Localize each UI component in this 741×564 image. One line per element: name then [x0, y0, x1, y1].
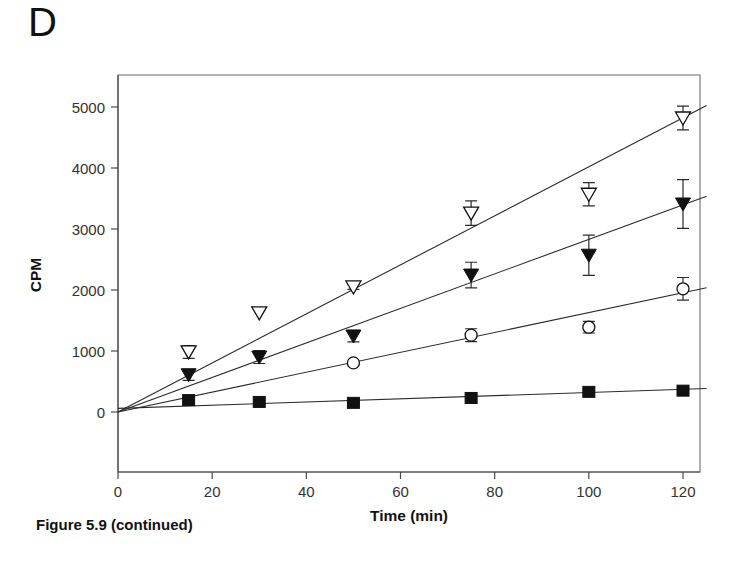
y-tick-label: 2000	[72, 282, 105, 299]
data-point-marker	[181, 346, 196, 359]
data-point-marker	[677, 283, 689, 295]
data-point-marker	[583, 386, 595, 397]
chart-svg: 010002000300040005000020406080100120 Tim…	[0, 0, 741, 564]
x-tick-label: 20	[204, 483, 221, 500]
data-point-marker	[183, 395, 195, 406]
data-point-marker	[581, 188, 596, 201]
chart-figure: 010002000300040005000020406080100120 Tim…	[0, 0, 741, 564]
data-point-marker	[465, 329, 477, 341]
regression-line	[118, 105, 707, 412]
x-axis-title: Time (min)	[370, 507, 448, 524]
axis-tick-labels: 010002000300040005000020406080100120	[72, 99, 696, 501]
x-tick-label: 120	[670, 483, 695, 500]
plot-frame	[118, 75, 700, 472]
regression-line	[118, 196, 707, 412]
x-tick-label: 60	[392, 483, 409, 500]
y-tick-label: 5000	[72, 99, 105, 116]
data-point-marker	[347, 397, 359, 408]
regression-lines	[118, 105, 707, 412]
x-tick-label: 100	[576, 483, 601, 500]
data-point-marker	[252, 307, 267, 320]
data-point-marker	[676, 112, 691, 125]
x-tick-label: 0	[114, 483, 122, 500]
regression-line	[118, 389, 707, 409]
x-tick-label: 80	[486, 483, 503, 500]
data-point-marker	[676, 198, 691, 211]
data-point-marker	[677, 385, 689, 396]
x-tick-label: 40	[298, 483, 315, 500]
data-point-marker	[464, 207, 479, 220]
y-tick-label: 1000	[72, 343, 105, 360]
plot-border	[118, 75, 700, 472]
data-point-marker	[253, 396, 265, 407]
data-point-marker	[346, 330, 361, 343]
figure-caption: Figure 5.9 (continued)	[36, 516, 193, 533]
y-tick-label: 3000	[72, 221, 105, 238]
y-tick-label: 4000	[72, 160, 105, 177]
data-point-marker	[583, 321, 595, 333]
data-point-marker	[347, 357, 359, 369]
regression-line	[118, 288, 707, 412]
data-point-marker	[465, 392, 477, 403]
data-point-marker	[581, 249, 596, 262]
y-tick-label: 0	[97, 404, 105, 421]
y-axis-title: CPM	[27, 258, 44, 292]
